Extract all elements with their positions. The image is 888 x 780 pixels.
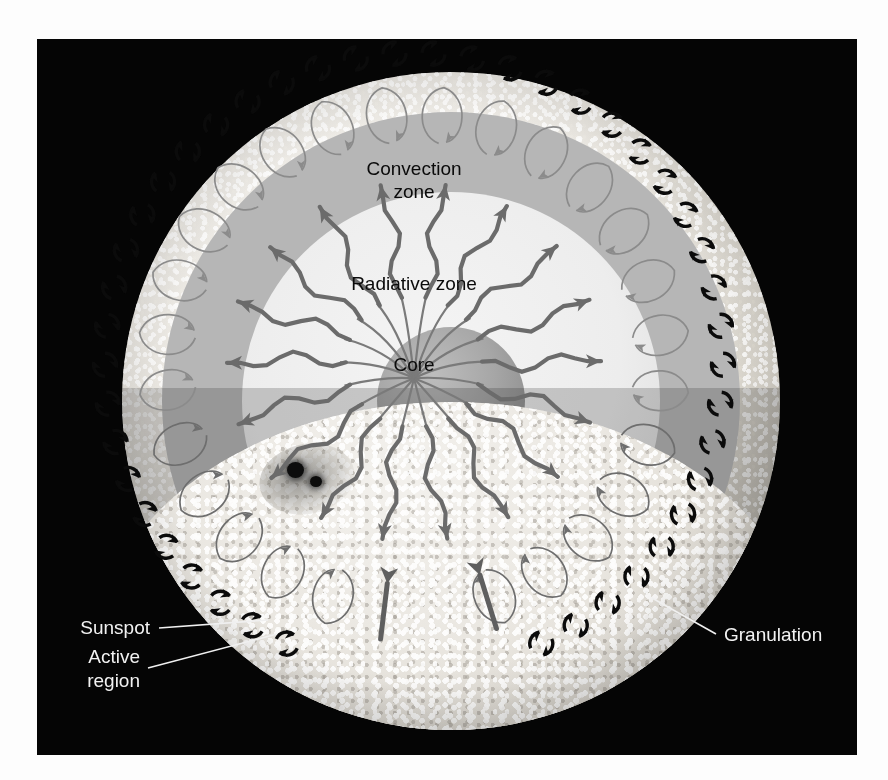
leader-granulation <box>652 598 716 634</box>
label-core: Core <box>393 354 434 375</box>
vector-overlay: Convection zone Radiative zone Core Suns… <box>0 0 888 780</box>
leader-sunspot <box>159 620 268 628</box>
label-active-region-line1: Active <box>88 646 140 667</box>
label-radiative-zone: Radiative zone <box>351 273 477 294</box>
label-active-region-line2: region <box>87 670 140 691</box>
label-sunspot: Sunspot <box>80 617 150 638</box>
plate-watermark <box>95 716 99 733</box>
label-granulation: Granulation <box>724 624 822 645</box>
convection-inflow-arrows <box>378 557 496 639</box>
figure-canvas: Convection zone Radiative zone Core Suns… <box>0 0 888 780</box>
label-convection-zone-line2: zone <box>393 181 434 202</box>
leader-active-region <box>148 634 277 668</box>
label-convection-zone-line1: Convection <box>366 158 461 179</box>
